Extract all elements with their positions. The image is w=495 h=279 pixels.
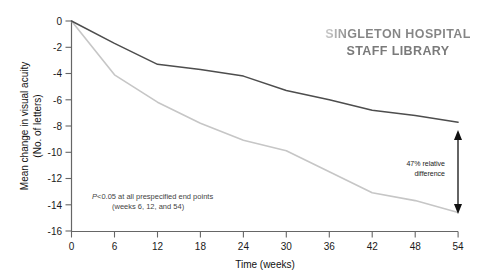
y-tick-label-1: -2 bbox=[53, 42, 62, 53]
line-chart: 0 -2 -4 -6 -8 -10 -12 -14 -16 0 6 12 18 … bbox=[0, 0, 495, 279]
series-control-line bbox=[72, 21, 459, 212]
relative-difference-label-line1: 47% relative bbox=[406, 160, 445, 167]
y-axis-title-line1: Mean change in visual acuity bbox=[19, 62, 30, 190]
pvalue-annotation-line2: (weeks 6, 12, and 54) bbox=[112, 202, 185, 211]
y-axis-title-line2: (No. of letters) bbox=[32, 94, 43, 157]
relative-difference-label-line2: difference bbox=[414, 170, 445, 177]
y-tick-label-8: -16 bbox=[48, 226, 63, 237]
y-axis-ticks bbox=[66, 21, 72, 231]
x-tick-label-7: 42 bbox=[367, 241, 379, 252]
y-tick-label-4: -8 bbox=[53, 121, 62, 132]
x-tick-label-4: 24 bbox=[238, 241, 250, 252]
x-tick-label-1: 6 bbox=[112, 241, 118, 252]
y-tick-label-6: -12 bbox=[48, 173, 63, 184]
chart-figure: 0 -2 -4 -6 -8 -10 -12 -14 -16 0 6 12 18 … bbox=[0, 0, 495, 279]
x-tick-label-2: 12 bbox=[152, 241, 164, 252]
x-tick-label-6: 36 bbox=[324, 241, 336, 252]
x-tick-label-0: 0 bbox=[69, 241, 75, 252]
y-tick-label-3: -6 bbox=[53, 95, 62, 106]
x-axis-ticks bbox=[72, 232, 459, 238]
y-tick-label-2: -4 bbox=[53, 68, 62, 79]
x-tick-label-9: 54 bbox=[453, 241, 465, 252]
x-axis-title: Time (weeks) bbox=[235, 259, 295, 270]
y-tick-label-7: -14 bbox=[48, 200, 63, 211]
y-tick-label-0: 0 bbox=[56, 16, 62, 27]
x-tick-label-5: 30 bbox=[281, 241, 293, 252]
series-treatment-line bbox=[72, 21, 459, 122]
x-tick-label-3: 18 bbox=[195, 241, 207, 252]
relative-difference-arrow bbox=[454, 130, 462, 214]
pvalue-annotation-line1: P<0.05 at all prespecified end points bbox=[92, 192, 213, 201]
x-tick-label-8: 48 bbox=[410, 241, 422, 252]
y-tick-label-5: -10 bbox=[48, 147, 63, 158]
